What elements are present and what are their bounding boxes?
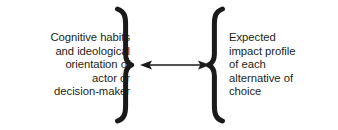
right-concept-label: Expected impact profile of each alternat…: [219, 31, 295, 98]
double-headed-arrow-icon: [139, 54, 211, 76]
relationship-diagram: Cognitive habits and ideological orienta…: [0, 0, 338, 130]
left-concept-label: Cognitive habits and ideological orienta…: [50, 31, 134, 98]
right-concept-group: Expected impact profile of each alternat…: [219, 0, 338, 130]
left-concept-group: Cognitive habits and ideological orienta…: [8, 0, 134, 130]
